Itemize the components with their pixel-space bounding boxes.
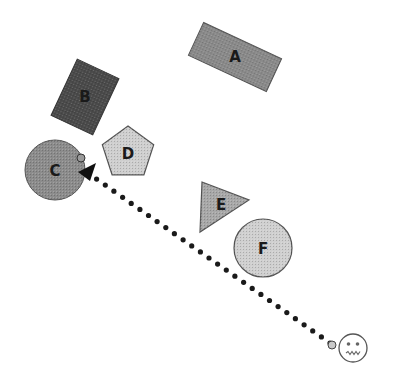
path-dot (250, 286, 255, 291)
diagram-canvas: A B C D E F (0, 0, 404, 386)
path-dot (232, 274, 237, 279)
path-dot (181, 237, 186, 242)
path-dot (267, 298, 272, 303)
shape-b-rectangle[interactable]: B (51, 59, 119, 135)
path-dot (319, 334, 324, 339)
path-dot (293, 316, 298, 321)
shape-label: C (49, 162, 60, 180)
path-end-marker (328, 341, 336, 349)
path-dot (111, 189, 116, 194)
path-dot (94, 177, 99, 182)
path-dot (189, 243, 194, 248)
shape-label: F (258, 240, 268, 258)
path-dot (224, 268, 229, 273)
shape-label: A (229, 48, 241, 66)
path-dot (198, 249, 203, 254)
path-dot (146, 213, 151, 218)
right-eye-icon (356, 342, 360, 346)
left-eye-icon (347, 342, 351, 346)
path-dot (172, 231, 177, 236)
shape-e-triangle[interactable]: E (200, 182, 249, 232)
path-dot (103, 183, 108, 188)
shape-label: D (122, 145, 134, 163)
path-dot (215, 262, 220, 267)
path-dot (258, 292, 263, 297)
shape-c-circle[interactable]: C (25, 140, 85, 200)
path-dot (241, 280, 246, 285)
path-dot (276, 304, 281, 309)
face-icon (339, 334, 367, 362)
shape-label: E (216, 196, 226, 214)
path-dot (206, 255, 211, 260)
path-dot (155, 219, 160, 224)
shape-a-rectangle[interactable]: A (188, 23, 281, 92)
path-start-marker (77, 154, 85, 162)
agent-face[interactable] (339, 334, 367, 362)
path-dot (310, 328, 315, 333)
path-dot (129, 201, 134, 206)
path-dot (137, 207, 142, 212)
path-dot (163, 225, 168, 230)
shape-d-pentagon[interactable]: D (102, 126, 153, 175)
shape-f-circle[interactable]: F (234, 219, 292, 277)
path-dot (120, 195, 125, 200)
path-dot (284, 310, 289, 315)
shape-label: B (79, 88, 90, 106)
path-dot (302, 322, 307, 327)
